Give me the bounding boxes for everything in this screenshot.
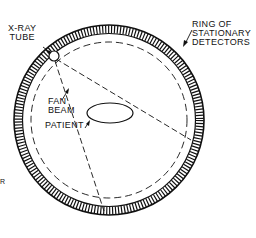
patient-label-text: PATIENT (45, 121, 84, 130)
xray-tube-leader-dot (47, 50, 50, 53)
ring-label: RING OF STATIONARY DETECTORS (192, 20, 251, 47)
xray-tube-label: X-RAY TUBE (8, 24, 36, 42)
fan-beam-label-line2: BEAM (48, 106, 75, 115)
xray-tube-label-line2: TUBE (8, 33, 36, 42)
patient-label: PATIENT (45, 121, 84, 130)
fan-beam-leader-arrow (65, 88, 69, 94)
ring-leader-arrow (183, 40, 188, 47)
fan-beam-label: FAN BEAM (48, 97, 75, 115)
ring-label-line3: DETECTORS (192, 38, 251, 47)
patient-ellipse (87, 103, 133, 123)
stray-label: R (0, 177, 5, 186)
stray-label-text: R (0, 177, 5, 186)
